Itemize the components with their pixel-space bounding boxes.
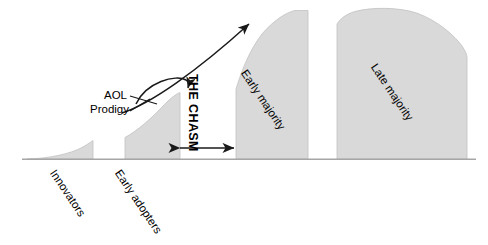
segment-shape-late-majority (337, 8, 467, 159)
segment-shape-innovators (27, 141, 93, 160)
prodigy-leader-line (130, 99, 150, 111)
annotation-aol: AOL (104, 90, 127, 102)
diagram-canvas: AOL Prodigy THE CHASM Innovators Early a… (0, 0, 488, 245)
annotation-the-chasm: THE CHASM (187, 74, 200, 152)
annotation-prodigy: Prodigy (90, 104, 129, 116)
